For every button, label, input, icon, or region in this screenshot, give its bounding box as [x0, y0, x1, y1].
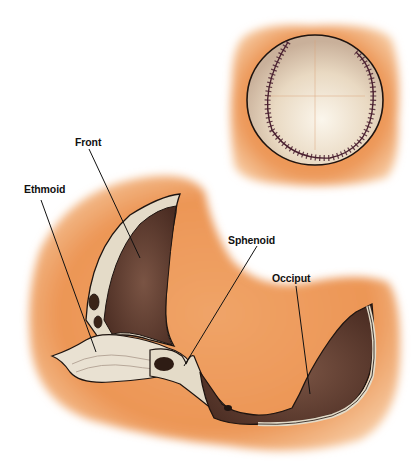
label-sphenoid: Sphenoid — [228, 234, 275, 246]
baseball-icon — [247, 35, 383, 165]
label-occiput: Occiput — [272, 272, 310, 284]
illustration — [0, 0, 417, 473]
label-front: Front — [75, 136, 101, 148]
label-ethmoid: Ethmoid — [24, 183, 65, 195]
diagram-canvas: Front Ethmoid Sphenoid Occiput — [0, 0, 417, 473]
